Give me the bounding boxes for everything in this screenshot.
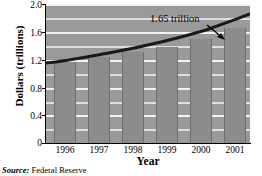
x-tick-label: 1999 [158,145,177,155]
y-tick-label: 1.2 [18,57,42,66]
y-tick-label: 0 [18,139,42,148]
chart-figure: Dollars (trillions) 2.0 1.6 1.2 0.8 0.4 … [0,0,262,176]
y-tick-label: 0.4 [18,112,42,121]
y-tick-label: 1.6 [18,29,42,38]
x-tick-label: 2000 [192,145,211,155]
annotation-label: 1.65 trillion [150,13,200,24]
x-tick-label: 1996 [56,145,75,155]
source-prefix: Source: [2,165,29,175]
y-tick-label: 0.8 [18,85,42,94]
y-tick-label: 2.0 [18,1,42,10]
annotation-arrow-icon [205,24,231,44]
x-tick-label: 1997 [90,145,109,155]
x-tick-label: 1998 [124,145,143,155]
y-axis-tick-labels: 2.0 1.6 1.2 0.8 0.4 0 [16,0,42,176]
x-tick-label: 2001 [226,145,245,155]
source-note: Source: Federal Reserve [2,165,87,175]
source-text: Federal Reserve [32,165,87,175]
x-axis-line [45,143,251,144]
y-axis-line [45,4,46,144]
